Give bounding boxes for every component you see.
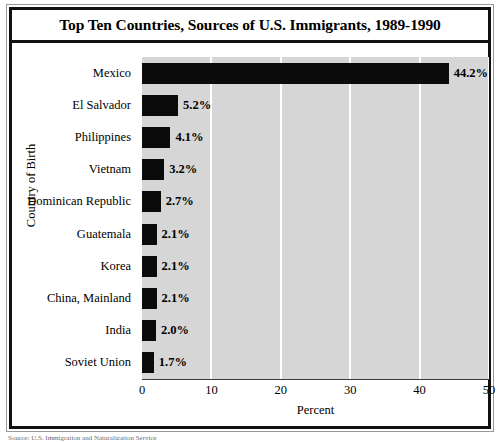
bar-series: 44.2% 5.2% 4.1% 3.2% 2.7% 2.1% 2.1% 2.1%… bbox=[142, 57, 489, 379]
y-axis-tick-label: El Salvador bbox=[72, 98, 137, 113]
y-axis-tick-label: India bbox=[105, 323, 137, 338]
bar bbox=[142, 224, 157, 245]
bar-value-label: 2.0% bbox=[161, 323, 189, 338]
y-axis-tick: Philippines bbox=[26, 121, 137, 153]
y-axis-tick-label: Korea bbox=[100, 259, 137, 274]
y-axis-tick-label: Dominican Republic bbox=[27, 194, 137, 209]
y-axis-tick: El Salvador bbox=[26, 89, 137, 121]
bar bbox=[142, 288, 157, 309]
x-axis-tick-label: 30 bbox=[344, 383, 357, 398]
figure-frame-inner: Top Ten Countries, Sources of U.S. Immig… bbox=[9, 7, 491, 429]
x-axis-tick-label: 50 bbox=[483, 383, 496, 398]
y-axis-tick-label: Philippines bbox=[75, 130, 137, 145]
y-axis-tick-label: China, Mainland bbox=[47, 291, 137, 306]
bar-row: 4.1% bbox=[142, 121, 489, 153]
bar-value-label: 5.2% bbox=[183, 98, 211, 113]
y-axis-tick-label: Guatemala bbox=[77, 227, 137, 242]
source-note: Source: U.S. Immigration and Naturalizat… bbox=[8, 434, 157, 442]
bar bbox=[142, 352, 154, 373]
chart-title-band: Top Ten Countries, Sources of U.S. Immig… bbox=[12, 10, 488, 43]
y-axis-tick-label: Mexico bbox=[93, 66, 137, 81]
x-axis-tick-label: 40 bbox=[413, 383, 426, 398]
bar-row: 2.1% bbox=[142, 250, 489, 282]
bar bbox=[142, 63, 449, 84]
x-axis-tick-label: 20 bbox=[275, 383, 288, 398]
x-axis-tick-label: 0 bbox=[139, 383, 145, 398]
y-axis-tick: Korea bbox=[26, 250, 137, 282]
y-axis-tick-label: Vietnam bbox=[89, 162, 137, 177]
bar-value-label: 2.1% bbox=[162, 259, 190, 274]
page-title: Top Ten Countries, Sources of U.S. Immig… bbox=[59, 16, 441, 34]
x-axis-line bbox=[142, 379, 489, 380]
y-axis-tick: Soviet Union bbox=[26, 347, 137, 379]
y-axis-tick: India bbox=[26, 315, 137, 347]
bar bbox=[142, 95, 178, 116]
y-axis-tick: Vietnam bbox=[26, 154, 137, 186]
bar-row: 2.1% bbox=[142, 218, 489, 250]
bar-value-label: 1.7% bbox=[159, 355, 187, 370]
bar-value-label: 2.7% bbox=[166, 194, 194, 209]
plot-area: 44.2% 5.2% 4.1% 3.2% 2.7% 2.1% 2.1% 2.1%… bbox=[142, 57, 489, 379]
bar-row: 1.7% bbox=[142, 347, 489, 379]
chart-body: Country of Birth Mexico El Salvador Phil… bbox=[12, 43, 488, 426]
x-axis-tick-label: 10 bbox=[205, 383, 218, 398]
x-axis-tick-labels: 01020304050 bbox=[142, 383, 489, 401]
y-axis-tick-label: Soviet Union bbox=[65, 355, 137, 370]
y-axis-tick: China, Mainland bbox=[26, 282, 137, 314]
bar-value-label: 2.1% bbox=[162, 227, 190, 242]
bar-value-label: 44.2% bbox=[454, 66, 488, 81]
y-axis-tick-labels: Mexico El Salvador Philippines Vietnam D… bbox=[26, 57, 137, 379]
bar bbox=[142, 159, 164, 180]
y-axis-tick: Mexico bbox=[26, 57, 137, 89]
bar-value-label: 4.1% bbox=[175, 130, 203, 145]
y-axis-tick: Dominican Republic bbox=[26, 186, 137, 218]
bar-row: 3.2% bbox=[142, 154, 489, 186]
bar-value-label: 2.1% bbox=[162, 291, 190, 306]
bar bbox=[142, 256, 157, 277]
x-axis-title: Percent bbox=[142, 403, 489, 418]
figure-frame-outer: Top Ten Countries, Sources of U.S. Immig… bbox=[6, 4, 494, 432]
bar bbox=[142, 191, 161, 212]
bar bbox=[142, 320, 156, 341]
y-axis-tick: Guatemala bbox=[26, 218, 137, 250]
bar-value-label: 3.2% bbox=[169, 162, 197, 177]
bar-row: 44.2% bbox=[142, 57, 489, 89]
bar-row: 5.2% bbox=[142, 89, 489, 121]
bar-row: 2.1% bbox=[142, 282, 489, 314]
bar-row: 2.7% bbox=[142, 186, 489, 218]
bar-row: 2.0% bbox=[142, 315, 489, 347]
bar bbox=[142, 127, 170, 148]
